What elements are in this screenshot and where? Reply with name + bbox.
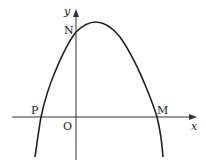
parabola-curve — [35, 22, 163, 157]
origin-label: O — [63, 120, 72, 133]
parabola-diagram: y N P M O x — [0, 0, 206, 165]
point-p-label: P — [31, 104, 39, 117]
y-axis-arrow-icon — [73, 9, 79, 17]
y-axis-label: y — [63, 5, 71, 18]
x-axis-label: x — [191, 120, 198, 133]
point-n-label: N — [64, 24, 74, 37]
point-m-label: M — [157, 104, 168, 117]
